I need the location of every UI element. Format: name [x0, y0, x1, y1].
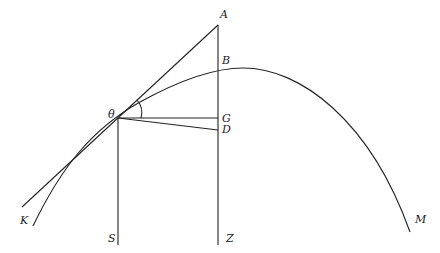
label-A: A — [219, 8, 228, 21]
label-K: K — [19, 214, 29, 227]
label-B: B — [221, 54, 230, 67]
label-M: M — [414, 213, 427, 226]
label-Z: Z — [225, 232, 234, 245]
line-thetaD — [118, 118, 218, 130]
label-theta: θ — [108, 108, 115, 121]
label-D: D — [221, 123, 231, 136]
geometry-diagram: A B θ G D K S Z M — [0, 0, 440, 253]
tangent-line-AK — [22, 25, 218, 207]
label-S: S — [108, 232, 116, 245]
parabola-curve — [33, 68, 410, 232]
